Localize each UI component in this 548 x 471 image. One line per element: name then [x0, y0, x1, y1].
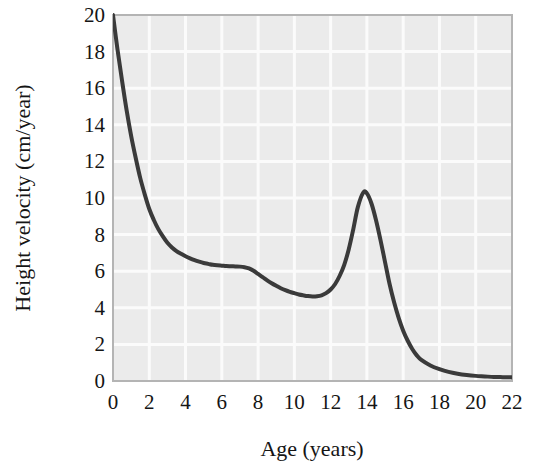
x-axis-tick-labels-group: 0246810121416182022 — [108, 390, 523, 414]
y-tick-label: 16 — [84, 76, 105, 100]
y-tick-label: 4 — [95, 296, 106, 320]
x-tick-label: 6 — [217, 390, 228, 414]
x-tick-label: 14 — [356, 390, 378, 414]
y-tick-label: 14 — [84, 113, 106, 137]
x-tick-label: 18 — [429, 390, 450, 414]
y-tick-label: 2 — [95, 332, 106, 356]
x-tick-label: 2 — [144, 390, 155, 414]
x-tick-label: 8 — [253, 390, 264, 414]
y-tick-label: 8 — [95, 223, 106, 247]
chart-svg: 0246810121416182022 02468101214161820 Ag… — [0, 0, 548, 471]
y-axis-tick-labels-group: 02468101214161820 — [84, 3, 106, 393]
y-tick-label: 12 — [84, 149, 105, 173]
x-tick-label: 12 — [320, 390, 341, 414]
x-tick-label: 16 — [393, 390, 414, 414]
y-tick-label: 18 — [84, 40, 105, 64]
x-tick-label: 22 — [502, 390, 523, 414]
y-tick-label: 0 — [95, 369, 106, 393]
height-velocity-chart-figure: 0246810121416182022 02468101214161820 Ag… — [0, 0, 548, 471]
x-axis-title: Age (years) — [260, 436, 363, 461]
chart-page: 0246810121416182022 02468101214161820 Ag… — [0, 0, 548, 471]
y-tick-label: 6 — [95, 259, 106, 283]
y-axis-title: Height velocity (cm/year) — [10, 84, 35, 311]
x-tick-label: 20 — [465, 390, 486, 414]
x-tick-label: 4 — [180, 390, 191, 414]
y-tick-label: 10 — [84, 186, 105, 210]
y-tick-label: 20 — [84, 3, 105, 27]
x-tick-label: 0 — [108, 390, 119, 414]
x-tick-label: 10 — [284, 390, 305, 414]
